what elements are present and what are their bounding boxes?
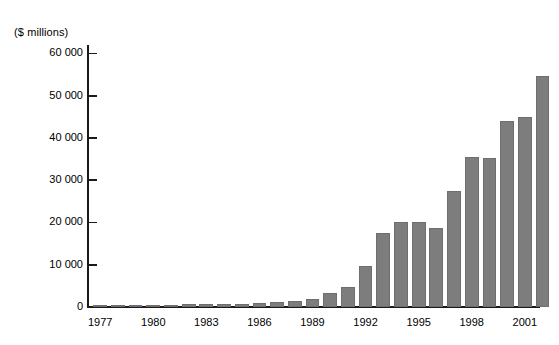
x-axis-tick-label: 1989 xyxy=(300,316,324,328)
bars-layer xyxy=(88,45,540,307)
bar xyxy=(429,228,443,307)
x-axis-tick-label: 1992 xyxy=(353,316,377,328)
bar xyxy=(217,304,231,307)
x-axis-tick-label: 1980 xyxy=(141,316,165,328)
bar xyxy=(394,222,408,307)
bar-chart: ($ millions) 010 00020 00030 00040 00050… xyxy=(0,0,559,345)
bar xyxy=(199,304,213,307)
bar xyxy=(164,305,178,307)
bar xyxy=(465,157,479,307)
bar xyxy=(306,299,320,307)
y-axis-tick-label: 0 xyxy=(11,301,83,312)
bar xyxy=(323,293,337,307)
y-axis-tick-label: 30 000 xyxy=(11,174,83,185)
y-axis-tick-label: 40 000 xyxy=(11,132,83,143)
bar xyxy=(341,287,355,307)
bar xyxy=(288,301,302,307)
x-axis-tick-label: 1998 xyxy=(459,316,483,328)
bar xyxy=(447,191,461,307)
x-axis-tick-label: 1977 xyxy=(88,316,112,328)
bar xyxy=(376,233,390,307)
y-axis-tick-label: 60 000 xyxy=(11,47,83,58)
y-axis-tick-label: 10 000 xyxy=(11,259,83,270)
x-axis-tick-label: 1986 xyxy=(247,316,271,328)
x-axis-tick-label: 1983 xyxy=(194,316,218,328)
bar xyxy=(359,266,373,307)
y-axis-tick-label: 20 000 xyxy=(11,216,83,227)
bar xyxy=(182,304,196,307)
bar xyxy=(536,76,550,307)
bar xyxy=(270,302,284,307)
bar xyxy=(412,222,426,307)
bar xyxy=(235,304,249,307)
bar xyxy=(93,305,107,307)
x-axis-tick-label: 1995 xyxy=(406,316,430,328)
bar xyxy=(518,117,532,307)
bar xyxy=(146,305,160,307)
bar xyxy=(500,121,514,307)
bar xyxy=(111,305,125,307)
y-axis-title: ($ millions) xyxy=(14,26,68,38)
y-axis-tick-label: 50 000 xyxy=(11,90,83,101)
bar xyxy=(483,158,497,307)
bar xyxy=(253,303,267,307)
bar xyxy=(129,305,143,307)
x-axis-tick-label: 2001 xyxy=(513,316,537,328)
